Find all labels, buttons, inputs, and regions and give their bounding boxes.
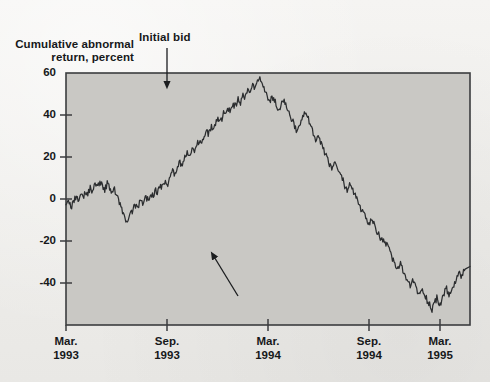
figure: Cumulative abnormalreturn, percent Initi… (0, 0, 490, 382)
plot-area (0, 0, 490, 382)
plot-background (66, 73, 470, 325)
